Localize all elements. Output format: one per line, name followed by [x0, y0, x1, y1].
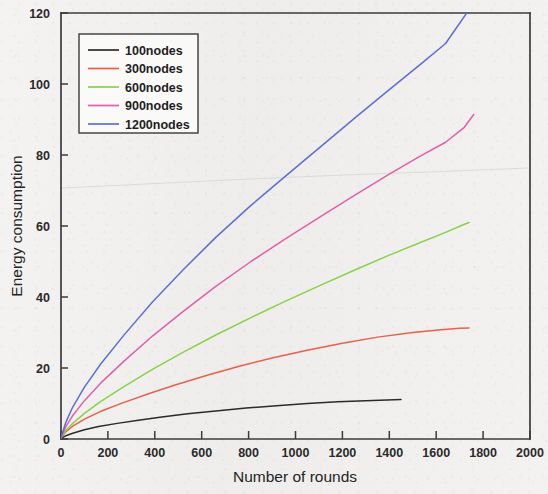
scan-artifact-streak: [62, 168, 528, 188]
y-tick-label: 60: [36, 220, 50, 234]
y-tick-label: 0: [43, 433, 50, 447]
series-line-100nodes: [61, 400, 401, 439]
legend-label-1200nodes: 1200nodes: [125, 118, 190, 132]
x-tick-label: 2000: [516, 446, 544, 460]
x-tick-label: 1000: [282, 446, 310, 460]
x-tick-label: 1400: [375, 446, 403, 460]
series-line-600nodes: [61, 222, 469, 437]
y-tick-label: 120: [29, 7, 50, 21]
x-axis-ticks: 0200400600800100012001400160018002000: [58, 431, 544, 460]
y-axis-ticks: 020406080100120: [29, 7, 68, 447]
x-axis-title: Number of rounds: [233, 468, 357, 485]
y-tick-label: 100: [29, 78, 50, 92]
legend: 100nodes300nodes600nodes900nodes1200node…: [79, 34, 198, 133]
y-tick-label: 20: [36, 362, 50, 376]
energy-consumption-line-chart: 020406080100120 020040060080010001200140…: [0, 0, 548, 494]
x-tick-label: 400: [144, 446, 165, 460]
y-tick-label: 80: [36, 149, 50, 163]
x-tick-label: 1600: [422, 446, 450, 460]
x-tick-label: 600: [191, 446, 212, 460]
y-tick-label: 40: [36, 291, 50, 305]
x-tick-label: 200: [97, 446, 118, 460]
y-axis-title: Energy consumption: [8, 155, 25, 296]
legend-label-300nodes: 300nodes: [125, 62, 183, 76]
legend-label-900nodes: 900nodes: [125, 99, 183, 113]
x-tick-label: 1800: [469, 446, 497, 460]
legend-label-100nodes: 100nodes: [125, 44, 183, 58]
legend-label-600nodes: 600nodes: [125, 81, 183, 95]
x-tick-label: 0: [58, 446, 65, 460]
series-line-300nodes: [61, 328, 469, 438]
series-line-900nodes: [61, 115, 474, 438]
x-tick-label: 800: [238, 446, 259, 460]
x-tick-label: 1200: [328, 446, 356, 460]
